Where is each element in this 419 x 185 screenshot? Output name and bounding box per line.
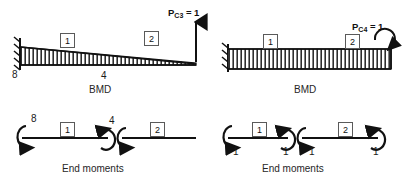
segment-box-1-left: 1 xyxy=(60,33,75,48)
end-moment-diagram-right xyxy=(223,126,385,150)
fixed-support-right xyxy=(222,43,228,72)
end-moment-value-right-4: 1 xyxy=(373,147,379,157)
end-moment-value-left-2: 4 xyxy=(109,116,115,126)
load-subscript: C3 xyxy=(174,12,183,19)
end-moments-caption-right: End moments xyxy=(262,164,324,174)
bmd-mid-value-left: 4 xyxy=(101,71,107,81)
segment-box-1-bottom-right: 1 xyxy=(252,122,267,137)
segment-box-2-right: 2 xyxy=(345,34,360,49)
segment-box-2-bottom-right: 2 xyxy=(338,122,353,137)
bmd-rectangle-right xyxy=(228,49,391,69)
load-equals: = 1 xyxy=(186,7,199,18)
load-label-pc3: PC3 = 1 xyxy=(168,8,199,18)
end-moment-value-right-3: 1 xyxy=(309,147,315,157)
end-moment-value-right-2: 1 xyxy=(283,147,289,157)
bmd-max-value-left: 8 xyxy=(12,70,18,80)
load-label-pc4: PC4 = 1 xyxy=(352,22,383,32)
bmd-triangle-left xyxy=(20,47,196,65)
segment-box-1-right: 1 xyxy=(263,34,278,49)
end-moment-value-right-1: 1 xyxy=(233,147,239,157)
bmd-caption-left: BMD xyxy=(89,85,111,95)
load-equals: = 1 xyxy=(370,21,383,32)
segment-box-2-bottom-left: 2 xyxy=(150,122,165,137)
segment-box-2-left: 2 xyxy=(144,31,159,46)
load-subscript: C4 xyxy=(358,26,367,33)
end-moments-caption-left: End moments xyxy=(62,164,124,174)
end-moment-value-left-1: 8 xyxy=(31,114,37,124)
structural-figure: PC3 = 1 PC4 = 1 1 2 1 2 8 4 BMD BMD 8 4 … xyxy=(0,0,419,185)
end-moment-diagram-left xyxy=(17,126,196,150)
bmd-caption-right: BMD xyxy=(294,85,316,95)
segment-box-1-bottom-left: 1 xyxy=(60,122,75,137)
